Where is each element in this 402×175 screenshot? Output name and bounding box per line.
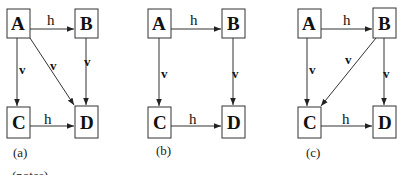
- edge-label-b-ab: h: [190, 12, 198, 28]
- diagram-canvas: h v v v h A B C D (a) h v v h A B C: [0, 0, 402, 175]
- edge-c-v-b-to-c: [321, 38, 376, 106]
- node-label-a-c: C: [12, 112, 26, 133]
- edge-label-a-cd: h: [44, 111, 52, 127]
- edge-label-c-ac: v: [309, 62, 316, 77]
- caption-b: (b): [156, 143, 171, 158]
- node-label-b-b: B: [227, 13, 240, 34]
- caption-c: (c): [306, 145, 320, 160]
- edge-label-c-bc: v: [345, 52, 352, 67]
- diagram-a: h v v v h A B C D (a): [7, 9, 98, 160]
- edge-label-c-ab: h: [343, 12, 351, 28]
- node-label-c-c: C: [303, 112, 317, 133]
- edge-label-a-ac: v: [19, 62, 26, 77]
- node-label-a-d: D: [80, 112, 94, 133]
- diagram-c: h v v v h A B C D (c): [298, 8, 396, 160]
- node-label-a-a: A: [11, 13, 25, 34]
- node-label-c-b: B: [378, 13, 391, 34]
- node-label-c-a: A: [302, 13, 316, 34]
- edge-label-c-cd: h: [342, 111, 350, 127]
- node-label-b-a: A: [152, 13, 166, 34]
- edge-label-a-bd: v: [84, 54, 91, 69]
- edge-label-a-ad: v: [50, 58, 57, 73]
- edge-label-b-ac: v: [161, 66, 168, 81]
- node-label-b-c: C: [153, 112, 167, 133]
- footer-text: (notes): [12, 168, 48, 175]
- edge-label-a-ab: h: [47, 12, 55, 28]
- node-label-b-d: D: [227, 112, 241, 133]
- node-label-c-d: D: [378, 112, 392, 133]
- diagram-b: h v v h A B C D (b): [148, 9, 245, 158]
- node-label-a-b: B: [80, 13, 93, 34]
- edge-label-b-cd: h: [189, 111, 197, 127]
- edge-label-b-bd: v: [232, 66, 239, 81]
- caption-a: (a): [13, 145, 27, 160]
- edge-label-c-bd: v: [383, 66, 390, 81]
